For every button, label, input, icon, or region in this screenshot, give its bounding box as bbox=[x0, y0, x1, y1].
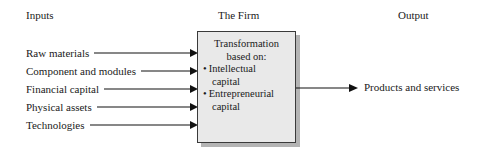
firm-box-bullet-label: Intellectual bbox=[209, 63, 256, 74]
arrow-line-icon bbox=[94, 53, 192, 54]
arrow-line-icon bbox=[141, 71, 192, 72]
input-arrow-technologies bbox=[90, 121, 199, 130]
arrow-line-icon bbox=[97, 107, 192, 108]
input-row: Financial capital bbox=[26, 82, 198, 96]
firm-box-bullet-intellectual-capital: •Intellectual bbox=[203, 63, 290, 76]
firm-box-bullet-label-cont: capital bbox=[203, 101, 290, 114]
input-label-technologies: Technologies bbox=[26, 119, 85, 132]
input-arrow-financial-capital bbox=[104, 85, 198, 94]
input-arrow-raw-materials bbox=[94, 49, 198, 58]
bullet-dot-icon: • bbox=[203, 63, 207, 74]
firm-box-bullet-label: Entrepreneurial bbox=[209, 88, 274, 99]
bullet-dot-icon: • bbox=[203, 88, 207, 99]
arrow-line-icon bbox=[104, 89, 192, 90]
column-header-inputs: Inputs bbox=[26, 9, 54, 22]
input-label-physical-assets: Physical assets bbox=[26, 101, 92, 114]
column-header-the-firm: The Firm bbox=[218, 9, 259, 22]
input-label-raw-materials: Raw materials bbox=[26, 47, 89, 60]
output-label-products-and-services: Products and services bbox=[364, 81, 459, 94]
input-row: Component and modules bbox=[26, 64, 198, 78]
arrow-line-icon bbox=[90, 125, 193, 126]
output-arrow bbox=[296, 83, 358, 92]
firm-transformation-box: Transformation based on: •Intellectual c… bbox=[197, 31, 296, 143]
firm-box-bullet-entrepreneurial-capital: •Entrepreneurial bbox=[203, 88, 290, 101]
arrow-head-icon bbox=[349, 84, 358, 92]
input-row: Technologies bbox=[26, 118, 198, 132]
firm-box-title-line-2: based on: bbox=[203, 51, 290, 64]
input-label-financial-capital: Financial capital bbox=[26, 83, 99, 96]
arrow-line-icon bbox=[296, 87, 351, 88]
firm-transformation-diagram: Inputs The Firm Output Raw materials Com… bbox=[0, 0, 491, 159]
input-row: Raw materials bbox=[26, 46, 198, 60]
input-arrow-component-and-modules bbox=[141, 67, 198, 76]
firm-box-bullet-label-cont: capital bbox=[203, 76, 290, 89]
column-header-output: Output bbox=[398, 9, 429, 22]
input-arrow-physical-assets bbox=[97, 103, 198, 112]
input-row: Physical assets bbox=[26, 100, 198, 114]
input-label-component-and-modules: Component and modules bbox=[26, 65, 136, 78]
firm-box-title-line-1: Transformation bbox=[203, 38, 290, 51]
